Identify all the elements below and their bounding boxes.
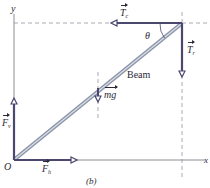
vector-arrow-icon: T [187, 45, 193, 55]
horizontal-force-label: Fh [42, 164, 51, 175]
weight-label: mg [104, 90, 116, 100]
vector-arrow-icon: F [42, 164, 48, 174]
figure-label: (b) [86, 177, 97, 186]
vector-arrow-icon: F [2, 118, 8, 128]
beam-label: Beam [127, 70, 150, 80]
y-axis-label: y [11, 4, 15, 14]
vector-arrow-icon: T [120, 8, 126, 18]
origin-label: O [4, 162, 11, 172]
tension-c-label: Tc [120, 8, 128, 19]
vector-arrow-icon: mg [104, 90, 116, 100]
theta-label: θ [145, 31, 150, 41]
vertical-force-label: Fv [2, 118, 11, 129]
x-axis-label: x [204, 156, 208, 165]
tension-r-label: Tr [187, 45, 195, 56]
